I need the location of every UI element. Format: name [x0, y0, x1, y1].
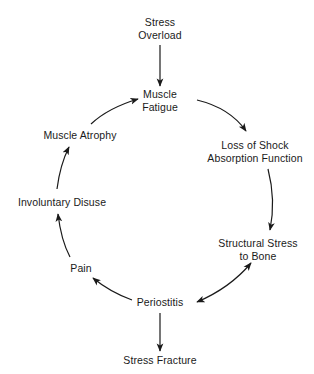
- node-structural-stress-line1: Structural Stress: [218, 237, 297, 250]
- node-loss-shock-line1: Loss of Shock: [207, 139, 302, 152]
- arrow-structural-periostitis: [197, 263, 251, 302]
- node-stress-overload-line2: Overload: [138, 29, 181, 42]
- node-involuntary-disuse: Involuntary Disuse: [18, 196, 106, 209]
- arrow-atrophy-to-fatigue: [91, 99, 138, 124]
- arrow-pain-to-disuse: [58, 214, 70, 257]
- node-muscle-fatigue: Muscle Fatigue: [142, 88, 178, 114]
- node-periostitis: Periostitis: [137, 296, 184, 309]
- arrows-layer: [0, 0, 314, 374]
- node-loss-shock-line2: Absorption Function: [207, 152, 302, 165]
- node-stress-overload-line1: Stress: [138, 16, 181, 29]
- node-muscle-fatigue-line1: Muscle: [142, 88, 178, 101]
- arrow-fatigue-to-loss: [197, 100, 246, 131]
- node-muscle-atrophy: Muscle Atrophy: [43, 129, 116, 142]
- node-loss-shock-absorption: Loss of Shock Absorption Function: [207, 139, 302, 165]
- arrow-periostitis-to-pain: [93, 278, 132, 300]
- node-stress-fracture: Stress Fracture: [123, 354, 196, 367]
- arrow-loss-to-structural: [268, 169, 273, 230]
- arrow-disuse-to-atrophy: [57, 147, 69, 189]
- node-stress-overload: Stress Overload: [138, 16, 181, 42]
- node-structural-stress-line2: to Bone: [218, 250, 297, 263]
- node-structural-stress: Structural Stress to Bone: [218, 237, 297, 263]
- node-pain: Pain: [70, 262, 91, 275]
- node-muscle-fatigue-line2: Fatigue: [142, 101, 178, 114]
